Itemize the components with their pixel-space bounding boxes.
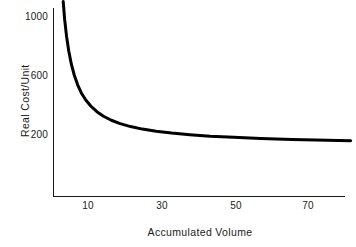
x-axis-title: Accumulated Volume bbox=[148, 227, 253, 238]
y-tick-label-1000: 1000 bbox=[25, 12, 48, 22]
experience-curve-chart: 1000 600 200 10 30 50 70 Accumulated Vol… bbox=[0, 0, 356, 247]
x-tick-label-10: 10 bbox=[82, 201, 94, 211]
y-tick-label-600: 600 bbox=[31, 71, 48, 81]
x-tick-label-50: 50 bbox=[230, 201, 242, 211]
y-tick-label-200: 200 bbox=[31, 130, 48, 140]
cost-curve-line bbox=[63, 2, 350, 141]
y-axis-title: Real Cost/Unit bbox=[20, 64, 31, 137]
x-tick-label-30: 30 bbox=[156, 201, 168, 211]
x-tick-label-70: 70 bbox=[302, 201, 314, 211]
